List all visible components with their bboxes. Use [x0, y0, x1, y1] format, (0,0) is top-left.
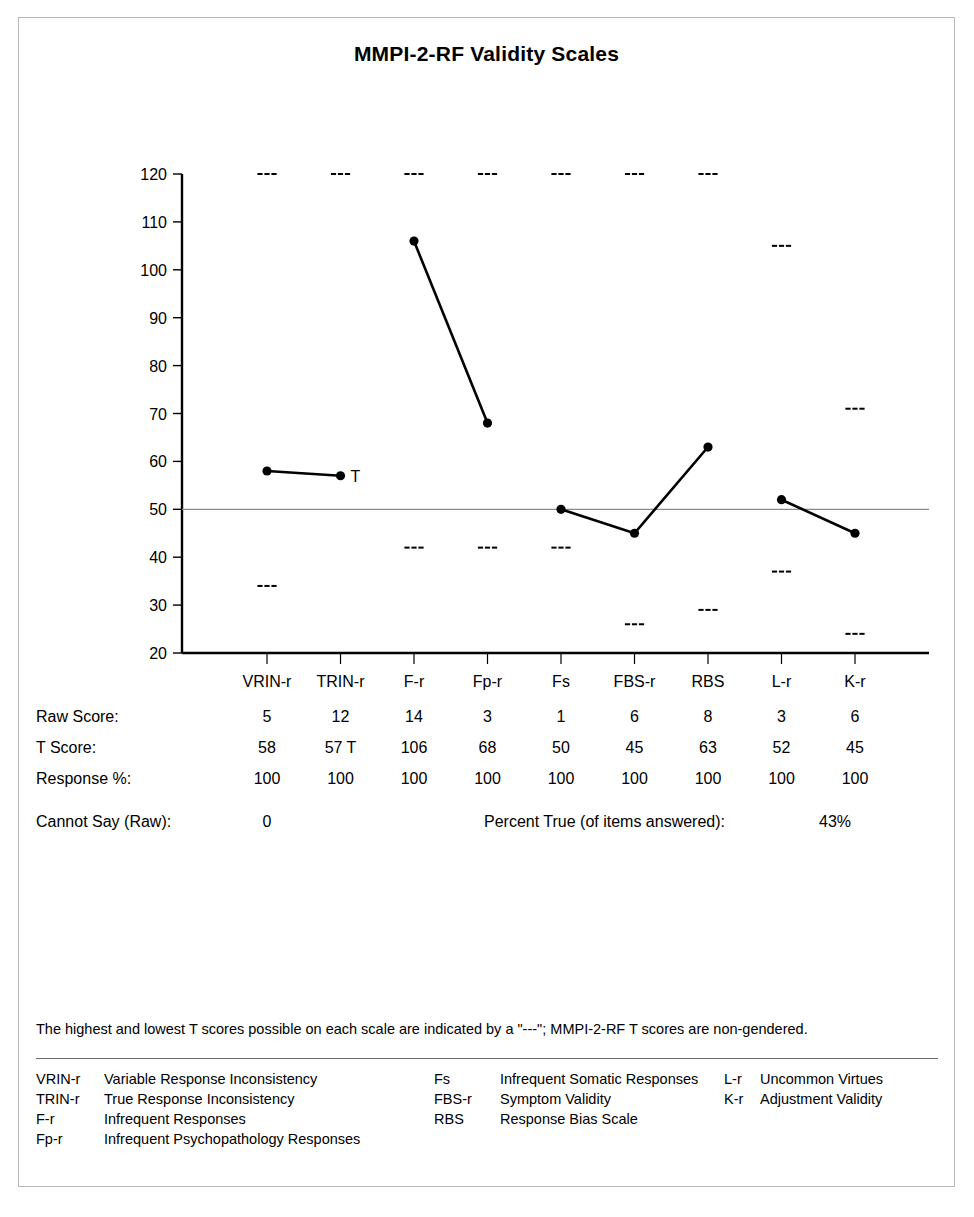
legend-item: Fp-rInfrequent Psychopathology Responses: [36, 1130, 434, 1149]
legend-item: L-rUncommon Virtues: [724, 1070, 939, 1089]
svg-text:90: 90: [149, 310, 167, 327]
table-row-label: Response %:: [36, 770, 131, 788]
y-axis: 2030405060708090100110120: [140, 166, 182, 662]
legend-column-1: VRIN-rVariable Response InconsistencyTRI…: [36, 1070, 434, 1149]
point-annotations: T: [351, 468, 361, 485]
table-cell: 63: [673, 739, 743, 757]
cannot-say-value: 0: [232, 813, 302, 831]
legend-name: True Response Inconsistency: [104, 1090, 294, 1109]
table-cell: 100: [820, 770, 890, 788]
table-cell: 100: [747, 770, 817, 788]
legend-abbr: Fp-r: [36, 1130, 104, 1149]
table-cell: 100: [379, 770, 449, 788]
svg-text:F-r: F-r: [404, 673, 425, 690]
table-cell: 6: [820, 708, 890, 726]
legend-name: Infrequent Psychopathology Responses: [104, 1130, 360, 1149]
table-cell: 1: [526, 708, 596, 726]
legend-abbr: K-r: [724, 1090, 760, 1109]
svg-text:Fp-r: Fp-r: [473, 673, 503, 690]
legend-item: FBS-rSymptom Validity: [434, 1090, 724, 1109]
scale-legend: VRIN-rVariable Response InconsistencyTRI…: [36, 1070, 941, 1149]
legend-column-2: FsInfrequent Somatic ResponsesFBS-rSympt…: [434, 1070, 724, 1149]
score-table: Raw Score:51214316836T Score:5857 T10668…: [19, 708, 956, 843]
table-cell: 5: [232, 708, 302, 726]
report-frame: MMPI-2-RF Validity Scales 20304050607080…: [18, 17, 955, 1187]
table-cell: 100: [306, 770, 376, 788]
svg-text:40: 40: [149, 549, 167, 566]
svg-text:50: 50: [149, 501, 167, 518]
legend-abbr: Fs: [434, 1070, 500, 1089]
table-cell: 6: [600, 708, 670, 726]
svg-text:FBS-r: FBS-r: [614, 673, 656, 690]
table-cell: 12: [306, 708, 376, 726]
profile-points: [262, 236, 859, 537]
table-cell: 57 T: [306, 739, 376, 757]
svg-text:30: 30: [149, 597, 167, 614]
legend-divider: [36, 1058, 938, 1059]
table-cell: 3: [747, 708, 817, 726]
legend-item: FsInfrequent Somatic Responses: [434, 1070, 724, 1089]
table-cell: 8: [673, 708, 743, 726]
legend-abbr: L-r: [724, 1070, 760, 1089]
legend-item: K-rAdjustment Validity: [724, 1090, 939, 1109]
legend-abbr: VRIN-r: [36, 1070, 104, 1089]
svg-text:Fs: Fs: [552, 673, 570, 690]
legend-item: F-rInfrequent Responses: [36, 1110, 434, 1129]
legend-column-3: L-rUncommon VirtuesK-rAdjustment Validit…: [724, 1070, 939, 1149]
svg-text:L-r: L-r: [772, 673, 792, 690]
legend-name: Uncommon Virtues: [760, 1070, 883, 1089]
legend-name: Variable Response Inconsistency: [104, 1070, 317, 1089]
percent-true-label: Percent True (of items answered):: [484, 813, 725, 831]
svg-text:80: 80: [149, 358, 167, 375]
table-cell: 100: [232, 770, 302, 788]
svg-text:T: T: [351, 468, 361, 485]
table-cell: 45: [600, 739, 670, 757]
legend-abbr: RBS: [434, 1110, 500, 1129]
table-cell: 52: [747, 739, 817, 757]
table-cell: 100: [673, 770, 743, 788]
limit-dash-markers: [257, 174, 864, 653]
x-axis-labels: VRIN-rTRIN-rF-rFp-rFsFBS-rRBSL-rK-r: [243, 673, 867, 690]
legend-name: Response Bias Scale: [500, 1110, 638, 1129]
table-cell: 100: [600, 770, 670, 788]
table-cell: 106: [379, 739, 449, 757]
svg-text:120: 120: [140, 166, 167, 183]
svg-text:RBS: RBS: [692, 673, 725, 690]
svg-text:TRIN-r: TRIN-r: [317, 673, 366, 690]
table-cell: 50: [526, 739, 596, 757]
svg-text:60: 60: [149, 453, 167, 470]
svg-text:VRIN-r: VRIN-r: [243, 673, 293, 690]
legend-abbr: TRIN-r: [36, 1090, 104, 1109]
table-cell: 45: [820, 739, 890, 757]
table-cell: 14: [379, 708, 449, 726]
percent-true-value: 43%: [819, 813, 851, 831]
svg-text:100: 100: [140, 262, 167, 279]
table-row: Response %:100100100100100100100100100: [19, 770, 956, 801]
legend-item: TRIN-rTrue Response Inconsistency: [36, 1090, 434, 1109]
cannot-say-label: Cannot Say (Raw):: [36, 813, 171, 831]
legend-item: VRIN-rVariable Response Inconsistency: [36, 1070, 434, 1089]
table-cell: 100: [453, 770, 523, 788]
legend-name: Adjustment Validity: [760, 1090, 882, 1109]
chart-svg: 2030405060708090100110120 T VRIN-rTRIN-r…: [19, 18, 956, 718]
table-row: Raw Score:51214316836: [19, 708, 956, 739]
table-row-label: T Score:: [36, 739, 96, 757]
svg-text:20: 20: [149, 645, 167, 662]
summary-row: Cannot Say (Raw): 0 Percent True (of ite…: [19, 813, 956, 843]
legend-name: Infrequent Somatic Responses: [500, 1070, 698, 1089]
legend-name: Symptom Validity: [500, 1090, 611, 1109]
table-cell: 68: [453, 739, 523, 757]
legend-item: RBSResponse Bias Scale: [434, 1110, 724, 1129]
table-row: T Score:5857 T106685045635245: [19, 739, 956, 770]
profile-line: [267, 241, 855, 533]
legend-abbr: F-r: [36, 1110, 104, 1129]
svg-text:110: 110: [141, 214, 167, 231]
table-row-label: Raw Score:: [36, 708, 119, 726]
x-axis: [182, 653, 929, 664]
legend-abbr: FBS-r: [434, 1090, 500, 1109]
svg-text:K-r: K-r: [844, 673, 866, 690]
validity-scales-chart: 2030405060708090100110120 T VRIN-rTRIN-r…: [19, 18, 956, 1188]
svg-text:70: 70: [149, 406, 167, 423]
table-cell: 100: [526, 770, 596, 788]
footnote-text: The highest and lowest T scores possible…: [36, 1021, 936, 1037]
